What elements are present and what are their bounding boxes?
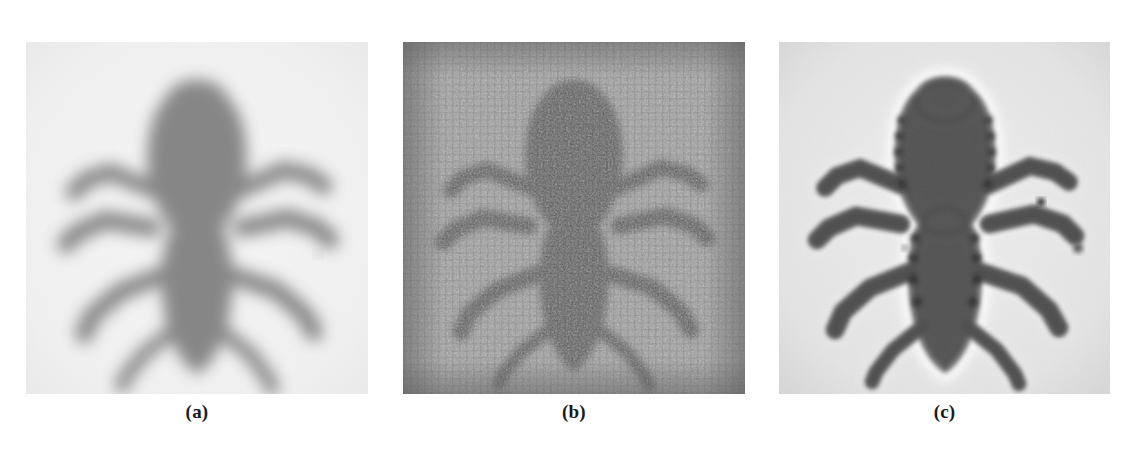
panel-b-image	[403, 42, 745, 394]
figure-panel-b: (b)	[403, 42, 745, 394]
panel-a-image	[26, 42, 368, 394]
panel-a-caption: (a)	[26, 400, 368, 424]
panel-b-caption: (b)	[403, 400, 745, 424]
figure-panel-row: (a)	[0, 0, 1136, 450]
figure-panel-a: (a)	[26, 42, 368, 394]
panel-c-image	[779, 42, 1110, 394]
figure-panel-c: (c)	[779, 42, 1110, 394]
panel-c-caption: (c)	[779, 400, 1110, 424]
